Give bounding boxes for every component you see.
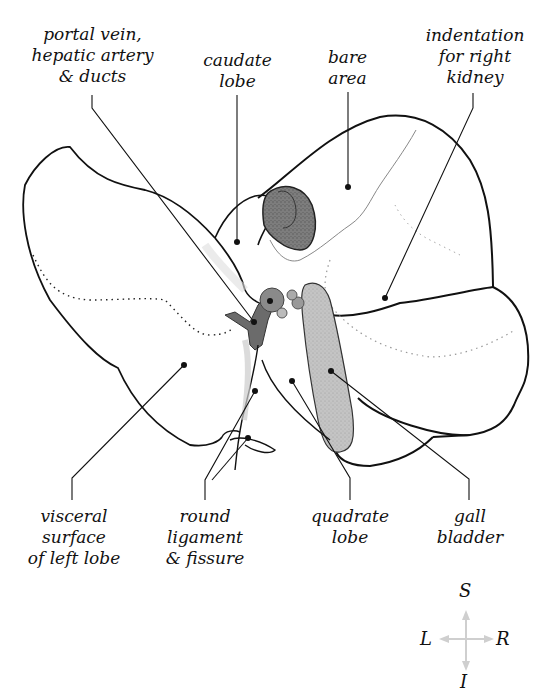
label-portal-vein: portal vein, hepatic artery & ducts: [20, 24, 165, 87]
dotted-bare-area: [395, 205, 460, 255]
compass-superior: S: [459, 581, 471, 601]
label-indentation-right-kidney: indentation for right kidney: [420, 25, 530, 88]
compass-right: R: [496, 629, 510, 649]
label-round-ligament-fissure: round ligament & fissure: [160, 506, 250, 569]
dotted-impression-right: [325, 260, 515, 357]
left-lobe: [23, 147, 245, 446]
orientation-compass: [439, 610, 494, 671]
compass-left: L: [420, 629, 432, 649]
label-quadrate-lobe: quadrate lobe: [305, 506, 395, 548]
dotted-impression-left: [33, 255, 233, 335]
gall-bladder-shape: [302, 283, 354, 452]
compass-inferior: I: [460, 672, 467, 692]
label-caudate-lobe: caudate lobe: [195, 50, 280, 92]
label-bare-area: bare area: [315, 47, 380, 89]
portal-structures: [225, 288, 304, 350]
liver-diagram: portal vein, hepatic artery & ducts caud…: [0, 0, 554, 699]
label-visceral-surface-left-lobe: visceral surface of left lobe: [18, 506, 130, 569]
label-gall-bladder: gall bladder: [430, 506, 510, 548]
